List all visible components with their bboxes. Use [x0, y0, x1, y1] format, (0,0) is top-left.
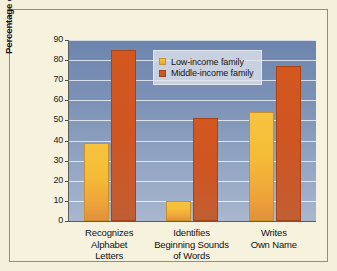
x-axis-category-label: RecognizesAlphabetLetters — [68, 227, 150, 262]
bar-mid — [193, 118, 218, 221]
y-axis-tick-label: 90 — [41, 34, 63, 44]
y-axis-tick-label: 0 — [41, 215, 63, 225]
legend-swatch-middle-income — [159, 70, 166, 77]
y-axis-tick-label: 40 — [41, 135, 63, 145]
plot-area: Low-income family Middle-income family — [68, 40, 316, 222]
chart-figure: Percentage of Kindergartners 01020304050… — [0, 0, 337, 271]
bar-mid — [111, 50, 136, 221]
x-axis-label-line: Alphabet — [68, 239, 150, 251]
bar-group — [69, 40, 151, 221]
y-axis-tick-label: 50 — [41, 114, 63, 124]
x-axis-label-line: Writes — [233, 227, 315, 239]
y-axis-tick-label: 70 — [41, 74, 63, 84]
chart-legend: Low-income family Middle-income family — [153, 50, 262, 85]
y-axis-tick-label: 10 — [41, 195, 63, 205]
legend-swatch-low-income — [159, 58, 166, 65]
legend-item-middle-income: Middle-income family — [159, 68, 254, 78]
x-axis-label-line: Letters — [68, 250, 150, 262]
y-axis-tick-label: 30 — [41, 155, 63, 165]
bar-low — [84, 143, 109, 221]
x-axis-category-label: WritesOwn Name — [233, 227, 315, 250]
bar-mid — [276, 66, 301, 221]
x-axis-label-line: of Words — [150, 250, 232, 262]
chart-frame: Percentage of Kindergartners 01020304050… — [9, 9, 328, 262]
legend-item-low-income: Low-income family — [159, 57, 254, 67]
x-axis-label-line: Identifies — [150, 227, 232, 239]
y-axis-tick-label: 80 — [41, 54, 63, 64]
x-axis-label-line: Own Name — [233, 239, 315, 251]
x-axis-category-label: IdentifiesBeginning Soundsof Words — [150, 227, 232, 262]
y-axis-tick-label: 20 — [41, 175, 63, 185]
y-axis-tick-label: 60 — [41, 94, 63, 104]
y-axis-title: Percentage of Kindergartners — [3, 0, 14, 54]
x-axis-label-line: Beginning Sounds — [150, 239, 232, 251]
bar-low — [249, 112, 274, 221]
legend-label-middle-income: Middle-income family — [171, 68, 254, 78]
bar-low — [166, 201, 191, 221]
legend-label-low-income: Low-income family — [171, 57, 244, 67]
x-axis-label-line: Recognizes — [68, 227, 150, 239]
